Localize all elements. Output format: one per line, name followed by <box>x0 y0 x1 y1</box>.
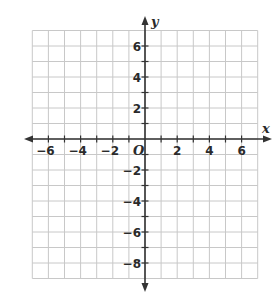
x-axis-right-arrow-icon <box>263 136 272 143</box>
y-tick-label: −6 <box>123 226 141 240</box>
x-tick-label: −2 <box>101 144 119 158</box>
y-tick-label: 4 <box>133 71 141 85</box>
y-tick-label: −8 <box>123 257 141 271</box>
origin-label: O <box>133 143 145 158</box>
x-axis-label: x <box>261 121 270 136</box>
x-axis-left-arrow-icon <box>24 136 33 143</box>
y-tick-label: −2 <box>123 164 141 178</box>
coordinate-plane: −6−4−2246642−2−4−6−8 x y O <box>0 0 278 297</box>
x-tick-label: 2 <box>173 144 181 158</box>
x-tick-label: −6 <box>36 144 54 158</box>
y-tick-label: 6 <box>133 40 141 54</box>
x-tick-label: 6 <box>237 144 245 158</box>
y-axis-up-arrow-icon <box>142 16 149 25</box>
y-axis-label: y <box>150 14 160 29</box>
x-tick-label: −4 <box>68 144 86 158</box>
x-tick-label: 4 <box>205 144 213 158</box>
y-axis-down-arrow-icon <box>142 283 149 292</box>
y-tick-label: 2 <box>133 102 141 116</box>
y-tick-label: −4 <box>123 195 141 209</box>
